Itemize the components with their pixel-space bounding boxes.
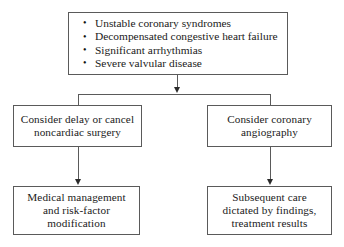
- box-text: Medical management and risk-factor modif…: [27, 191, 125, 230]
- consider-coronary-angiography-box: Consider coronary angiography: [207, 105, 332, 147]
- text-line: dictated by findings,: [223, 204, 317, 217]
- text-line: Consider coronary: [227, 113, 312, 126]
- connector-split-bar: [78, 94, 271, 95]
- text-line: Medical management: [27, 191, 125, 204]
- box-text: Subsequent care dictated by findings, tr…: [223, 191, 317, 230]
- arrowhead-down-icon: [75, 179, 81, 185]
- text-line: and risk-factor: [27, 204, 125, 217]
- text-line: treatment results: [223, 217, 317, 230]
- text-line: Consider delay or cancel: [21, 113, 134, 126]
- consider-delay-or-cancel-box: Consider delay or cancel noncardiac surg…: [13, 105, 142, 147]
- arrowhead-down-icon: [267, 179, 273, 185]
- text-line: modification: [27, 217, 125, 230]
- list-item: Decompensated congestive heart failure: [83, 30, 287, 43]
- box-text: Consider coronary angiography: [227, 113, 312, 139]
- criteria-list: Unstable coronary syndromes Decompensate…: [69, 17, 287, 70]
- subsequent-care-box: Subsequent care dictated by findings, tr…: [207, 186, 332, 235]
- connector-drop-right: [270, 94, 271, 105]
- connector-drop-left: [78, 94, 79, 105]
- list-item: Significant arrhythmias: [83, 44, 287, 57]
- list-item: Unstable coronary syndromes: [83, 17, 287, 30]
- text-line: Subsequent care: [223, 191, 317, 204]
- arrowhead-down-icon: [174, 87, 180, 93]
- box-text: Consider delay or cancel noncardiac surg…: [21, 113, 134, 139]
- connector-stem-right: [270, 147, 271, 180]
- text-line: noncardiac surgery: [21, 126, 134, 139]
- flowchart-canvas: Unstable coronary syndromes Decompensate…: [0, 0, 344, 247]
- list-item: Severe valvular disease: [83, 57, 287, 70]
- active-cardiac-conditions-box: Unstable coronary syndromes Decompensate…: [68, 12, 288, 75]
- text-line: angiography: [227, 126, 312, 139]
- connector-stem-left: [78, 147, 79, 180]
- medical-management-box: Medical management and risk-factor modif…: [13, 186, 140, 235]
